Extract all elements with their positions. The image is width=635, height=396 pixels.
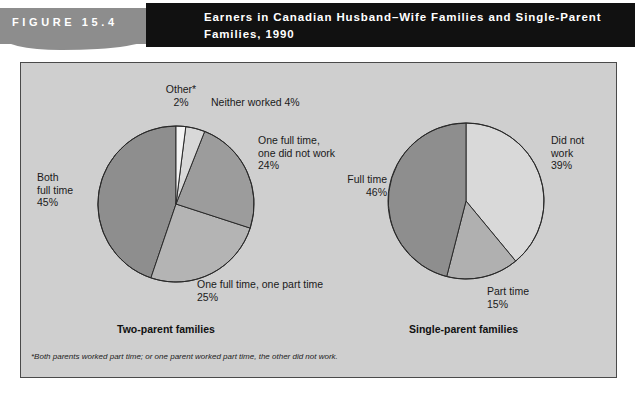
- figure-title: Earners in Canadian Husband–Wife Familie…: [204, 9, 614, 43]
- caption-single-parent-families: Single-parent families: [409, 323, 518, 335]
- label-part-time: Part time 15%: [487, 285, 529, 310]
- label-both-full-time: Both full time 45%: [37, 171, 73, 209]
- label-neither-worked: Neither worked 4%: [211, 96, 300, 109]
- right-pie-chart: [388, 123, 544, 279]
- caption-two-parent-families: Two-parent families: [117, 323, 215, 335]
- left-pie-chart: [98, 126, 254, 282]
- label-other: Other* 2%: [153, 83, 209, 108]
- label-did-not-work: Did not work 39%: [551, 134, 584, 172]
- label-full-time: Full time 46%: [307, 173, 387, 198]
- figure-screenshot: FIGURE 15.4 Earners in Canadian Husband–…: [0, 0, 635, 396]
- label-one-full-one-none: One full time, one did not work 24%: [258, 134, 335, 172]
- label-one-full-one-part: One full time, one part time 25%: [197, 278, 323, 303]
- figure-banner-wave-decoration: [0, 36, 153, 50]
- figure-number-label: FIGURE 15.4: [12, 16, 152, 28]
- pie-charts-svg: [21, 63, 618, 379]
- chart-panel: Other* 2% Neither worked 4% One full tim…: [20, 62, 617, 378]
- figure-footnote: *Both parents worked part time; or one p…: [31, 352, 338, 361]
